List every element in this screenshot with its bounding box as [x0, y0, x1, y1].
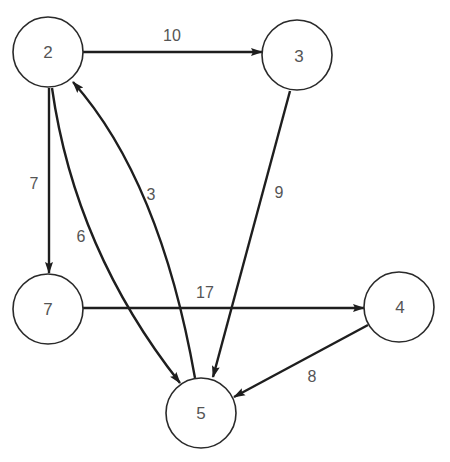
edge-weight-4-5: 8 [308, 368, 317, 385]
node-label: 7 [43, 300, 52, 319]
edge-weight-2-3: 10 [163, 27, 181, 44]
node-label: 2 [43, 43, 52, 62]
edge-weight-7-4: 17 [196, 284, 214, 301]
node-4[interactable]: 4 [364, 272, 434, 342]
edge-2-to-5[interactable] [52, 88, 180, 383]
edge-weight-5-2: 3 [147, 186, 156, 203]
edge-3-to-5[interactable] [213, 91, 290, 377]
node-label: 4 [395, 298, 404, 317]
node-5[interactable]: 5 [166, 378, 236, 448]
node-3[interactable]: 3 [262, 20, 332, 90]
node-7[interactable]: 7 [13, 274, 83, 344]
edge-4-to-5[interactable] [234, 325, 368, 397]
edge-weight-2-7: 7 [30, 175, 39, 192]
graph-canvas: 10 7 6 3 9 17 8 2 3 7 4 5 [0, 0, 450, 462]
node-label: 5 [196, 404, 205, 423]
edge-weight-2-5: 6 [77, 228, 86, 245]
edge-weight-3-5: 9 [275, 184, 284, 201]
node-label: 3 [294, 47, 303, 66]
node-2[interactable]: 2 [13, 17, 83, 87]
edges [49, 52, 368, 397]
